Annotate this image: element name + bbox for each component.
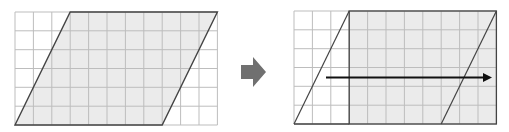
right-arrow-icon (241, 57, 266, 87)
parallelogram-area-diagram (0, 0, 509, 132)
left-panel (15, 12, 217, 125)
right-panel (294, 11, 496, 124)
